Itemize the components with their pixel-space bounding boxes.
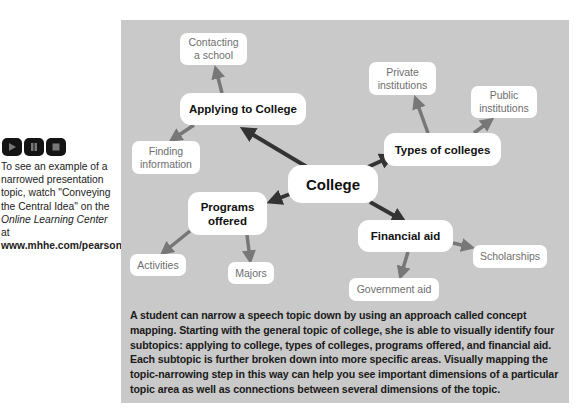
- node-scholarships: Scholarships: [473, 245, 547, 268]
- arrow-to-public: [474, 121, 490, 133]
- figure-caption: A student can narrow a speech topic down…: [130, 308, 560, 397]
- node-programs-label: Programs offered: [196, 200, 260, 228]
- node-finding-information: Finding information: [132, 141, 200, 174]
- node-private-institutions: Private institutions: [369, 62, 436, 95]
- arrow-to-activities: [164, 231, 190, 252]
- arrow-to-private: [416, 100, 428, 133]
- arrow-to-government-aid: [401, 252, 408, 275]
- arrow-to-applying: [245, 130, 312, 170]
- node-financial-aid: Financial aid: [358, 220, 453, 252]
- node-contacting-label: Contacting a school: [186, 36, 242, 62]
- node-activities: Activities: [130, 254, 186, 276]
- node-contacting-a-school: Contacting a school: [180, 33, 247, 65]
- node-public-label: Public institutions: [474, 89, 534, 115]
- node-public-institutions: Public institutions: [471, 86, 537, 118]
- node-college: College: [288, 165, 378, 203]
- node-types-of-colleges: Types of colleges: [384, 133, 501, 166]
- node-private-label: Private institutions: [373, 66, 433, 92]
- arrow-to-finding: [173, 125, 194, 139]
- arrow-to-majors: [247, 235, 250, 259]
- node-programs-offered: Programs offered: [188, 192, 267, 235]
- arrow-to-scholarships: [453, 243, 470, 247]
- node-applying-to-college: Applying to College: [180, 93, 306, 125]
- arrow-to-programs: [272, 194, 290, 201]
- node-finding-label: Finding information: [136, 145, 196, 171]
- arrow-to-financial: [370, 202, 402, 220]
- node-government-aid: Government aid: [349, 278, 439, 301]
- arrow-to-contacting: [216, 70, 222, 93]
- node-majors: Majors: [228, 262, 274, 284]
